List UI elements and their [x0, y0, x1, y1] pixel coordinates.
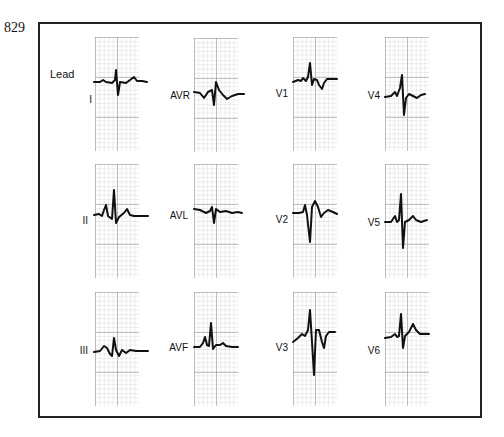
- ecg-trace-V5: [383, 190, 443, 260]
- lead-label-AVL: AVL: [158, 210, 188, 221]
- lead-title: Lead: [50, 68, 74, 80]
- ecg-trace-V6: [383, 308, 443, 368]
- ecg-trace-V3: [291, 300, 351, 370]
- lead-label-AVF: AVF: [158, 342, 188, 353]
- lead-label-III: III: [58, 345, 88, 356]
- lead-label-AVR: AVR: [160, 90, 190, 101]
- lead-label-V5: V5: [350, 217, 380, 228]
- lead-label-I: I: [62, 94, 92, 105]
- lead-label-V3: V3: [258, 342, 288, 353]
- ecg-trace-III: [92, 320, 152, 370]
- ecg-trace-AVF: [192, 315, 252, 365]
- lead-label-V2: V2: [258, 214, 288, 225]
- lead-label-II: II: [58, 215, 88, 226]
- figure-number: 829: [4, 20, 25, 36]
- ecg-trace-I: [92, 60, 152, 110]
- ecg-trace-V1: [291, 55, 351, 105]
- ecg-trace-II: [92, 185, 152, 235]
- ecg-trace-AVR: [192, 70, 252, 120]
- ecg-trace-AVL: [192, 195, 252, 245]
- lead-label-V6: V6: [350, 345, 380, 356]
- lead-label-V4: V4: [350, 90, 380, 101]
- ecg-trace-V4: [383, 70, 443, 130]
- ecg-trace-V2: [291, 195, 351, 255]
- lead-label-V1: V1: [258, 88, 288, 99]
